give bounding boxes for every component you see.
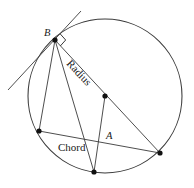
point-label-a: A <box>105 130 113 141</box>
tangent-line <box>8 11 81 90</box>
geometry-diagram: B A Radius Chord <box>0 0 194 188</box>
vertex-dot-chord-left <box>36 128 41 133</box>
vertex-dot-center <box>102 93 107 98</box>
vertex-dot-b <box>52 37 57 42</box>
right-angle-icon <box>60 34 65 46</box>
chord-label: Chord <box>58 141 86 153</box>
point-label-b: B <box>44 27 51 38</box>
vertex-dot-bottom <box>91 169 96 174</box>
circle-geometry-figure: B A Radius Chord <box>0 0 194 188</box>
radius-label: Radius <box>65 57 95 88</box>
vertex-dot-right <box>157 150 162 155</box>
segment-center-to-bottom <box>94 96 105 172</box>
